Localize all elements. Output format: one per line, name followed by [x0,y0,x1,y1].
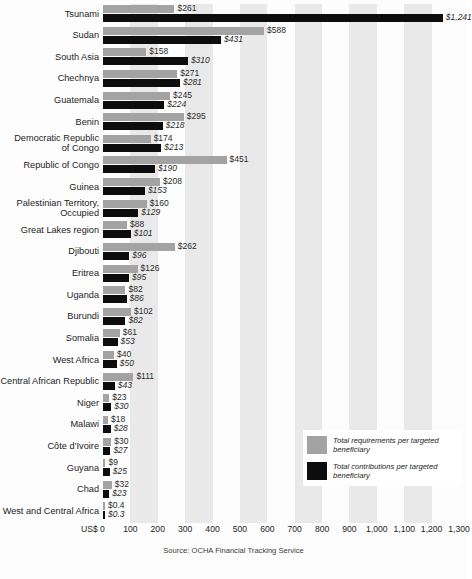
bar-row: $245$224 [103,91,459,113]
bar-contributions [103,338,118,346]
category-label: Somalia [0,334,99,344]
bar-contributions [103,252,129,260]
axis-tick-label: 1,100 [393,524,415,534]
category-label: Chechnya [0,74,99,84]
bar-contributions [103,382,115,390]
bar-value-label-contributions: $281 [183,78,202,87]
bar-value-label-contributions: $224 [167,100,186,109]
bar-value-label-contributions: $190 [158,164,177,173]
axis-tick-label: 1,000 [366,524,388,534]
category-label: Burundi [0,312,99,322]
bar-contributions [103,14,443,22]
bar-row: $0.4$0.3 [103,501,459,523]
bar-row: $88$101 [103,220,459,242]
bar-value-label-contributions: $96 [132,251,146,260]
legend-label-contributions: Total contributions per targeted benefic… [333,462,457,480]
bar-value-label-contributions: $82 [128,316,142,325]
bar-requirements [103,329,120,337]
category-label: Tsunami [0,10,99,20]
bar-contributions [103,144,161,152]
bar-value-label-contributions: $23 [112,489,126,498]
bar-contributions [103,230,131,238]
bar-value-label-contributions: $431 [224,35,243,44]
bar-requirements [103,135,151,143]
bar-value-label-requirements: $262 [178,242,197,251]
legend-swatch-requirements-icon [307,436,327,454]
bar-contributions [103,79,180,87]
bar-row: $208$153 [103,177,459,199]
axis-tick-label: 500 [233,524,247,534]
bar-requirements [103,308,131,316]
axis-tick-label: 900 [342,524,356,534]
category-label: West Africa [0,356,99,366]
bar-requirements [103,351,114,359]
bar-row: $271$281 [103,69,459,91]
bar-contributions [103,403,111,411]
axis-unit-label: US$ 0 [81,524,105,534]
bar-contributions [103,57,188,65]
bar-requirements [103,286,125,294]
bar-row: $40$50 [103,350,459,372]
category-axis: TsunamiSudanSouth AsiaChechnyaGuatemalaB… [0,4,99,523]
bar-value-label-requirements: $261 [177,4,196,13]
bar-value-label-contributions: $30 [114,402,128,411]
bar-row: $126$95 [103,264,459,286]
bar-requirements [103,394,109,402]
bar-value-label-contributions: $310 [191,56,210,65]
legend: Total requirements per targeted benefici… [303,430,461,486]
bar-value-label-contributions: $53 [121,337,135,346]
axis-tick-label: 1,200 [421,524,443,534]
bar-row: $111$43 [103,372,459,394]
bar-contributions [103,360,117,368]
bar-contributions [103,101,164,109]
bar-value-label-requirements: $111 [136,372,154,381]
category-label: Palestinian Territory, Occupied [0,199,99,218]
value-axis: US$ 01002003004005006007008009001,0001,1… [0,524,467,540]
legend-item-contributions: Total contributions per targeted benefic… [307,462,457,480]
category-label: Central African Republic [0,377,99,387]
bar-value-label-requirements: $158 [149,47,168,56]
category-label: Benin [0,118,99,128]
legend-label-requirements: Total requirements per targeted benefici… [333,436,457,454]
bar-value-label-contributions: $25 [113,467,127,476]
category-label: Great Lakes region [0,226,99,236]
bar-contributions [103,209,138,217]
bar-row: $174$213 [103,134,459,156]
axis-tick-label: 100 [123,524,137,534]
bar-contributions [103,447,110,455]
category-label: Republic of Congo [0,161,99,171]
bar-value-label-contributions: $218 [166,121,185,130]
bar-contributions [103,490,109,498]
bar-row: $61$53 [103,328,459,350]
bar-requirements [103,481,112,489]
bar-contributions [103,122,163,130]
axis-tick-label: 200 [151,524,165,534]
category-label: Guyana [0,464,99,474]
axis-tick-label: 800 [315,524,329,534]
bar-requirements [103,502,105,510]
bar-value-label-contributions: $129 [141,208,160,217]
axis-tick-label: 400 [205,524,219,534]
bar-requirements [103,438,111,446]
bar-requirements [103,70,177,78]
bar-requirements [103,416,108,424]
bar-value-label-contributions: $27 [113,446,127,455]
category-label: Guinea [0,183,99,193]
bar-value-label-contributions: $50 [120,359,134,368]
category-label: Eritrea [0,269,99,279]
bar-value-label-contributions: $86 [130,294,144,303]
bar-row: $295$218 [103,112,459,134]
bar-value-label-contributions: $28 [114,424,128,433]
axis-tick-label: 600 [260,524,274,534]
category-label: Chad [0,485,99,495]
bar-value-label-contributions: $1,241 [446,13,472,22]
bar-row: $158$310 [103,47,459,69]
category-label: Democratic Republic of Congo [0,134,99,153]
bar-row: $588$431 [103,26,459,48]
bar-contributions [103,187,145,195]
bar-requirements [103,92,170,100]
category-label: Côte d’Ivoire [0,442,99,452]
bar-requirements [103,48,146,56]
category-label: Niger [0,399,99,409]
